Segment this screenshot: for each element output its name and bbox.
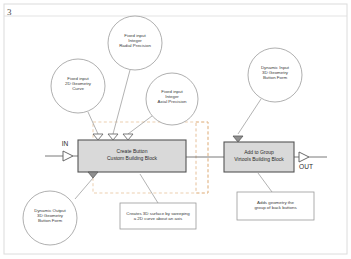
leader-line-note-create [140,174,158,203]
page-number: 3 [7,7,12,17]
diagram-svg [0,0,351,259]
leader-line-axial [128,116,152,134]
block-create-button[interactable] [78,140,186,172]
leader-line-dynamic-input [238,99,261,134]
block-add-to-group[interactable] [224,142,294,172]
in-port-arrow-icon[interactable] [63,151,73,161]
bubble-dynamic-output-3d-geometry-button-form[interactable] [23,191,77,245]
input-port-triangle-icon-curve[interactable] [93,134,103,140]
diagram-canvas: 3 Fixed input 2D Geometry Curve Fixed in… [0,0,351,259]
leader-line-radial [113,70,130,134]
bubble-fixed-input-2d-geometry-curve[interactable] [51,59,105,113]
input-port-triangle-icon-radial[interactable] [108,134,118,140]
note-box-add-to-group[interactable] [237,192,314,220]
selection-marquee[interactable] [196,122,208,193]
output-port-triangle-icon-button-form[interactable] [88,172,98,178]
out-port-arrow-icon[interactable] [299,152,309,162]
bubble-fixed-input-integer-axial-precision[interactable] [146,73,198,125]
note-box-create-button[interactable] [120,203,196,229]
bubble-fixed-input-integer-radial-precision[interactable] [108,16,162,70]
input-port-triangle-icon-dynamic[interactable] [233,136,243,142]
leader-line-note-group [258,173,272,192]
input-port-triangle-icon-axial[interactable] [123,134,133,140]
leader-line-dynamic-output [75,178,93,199]
bubble-dynamic-input-3d-geometry-button-form[interactable] [248,48,302,102]
